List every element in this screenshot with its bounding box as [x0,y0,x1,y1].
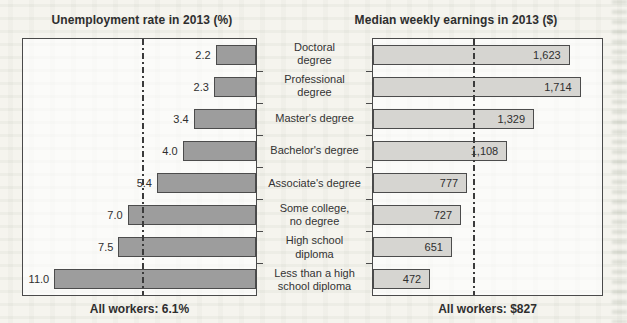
earnings-row: 1,714 [373,71,602,103]
axis-tick [257,71,263,72]
category-label: Less than a high school diploma [257,264,372,296]
earnings-value-label: 1,108 [471,145,507,157]
earnings-bars: 1,6231,7141,3291,108777727651472 [373,39,602,295]
earnings-row: 1,623 [373,39,602,71]
earnings-value-label: 1,329 [497,113,533,125]
unemployment-bar [128,205,256,225]
earnings-value-label: 777 [440,177,466,189]
unemployment-value-label: 2.3 [194,81,209,93]
earnings-value-label: 472 [403,273,429,285]
unemployment-bars: 2.22.33.44.05.47.07.511.0 [23,39,256,295]
axis-tick [257,167,263,168]
earnings-bar: 1,329 [373,109,534,129]
category-label: Associate's degree [257,167,372,199]
earnings-value-label: 1,714 [544,81,580,93]
earnings-row: 1,329 [373,103,602,135]
category-label: Doctoral degree [257,38,372,70]
earnings-row: 727 [373,199,602,231]
axis-tick [257,135,263,136]
category-label: Bachelor's degree [257,135,372,167]
category-label: Master's degree [257,103,372,135]
earnings-bar: 472 [373,269,430,289]
axis-tick [257,231,263,232]
unemployment-value-label: 7.0 [107,209,122,221]
earnings-bar: 1,714 [373,77,581,97]
unemployment-bar [194,109,256,129]
unemployment-row: 2.3 [23,71,256,103]
unemployment-value-label: 2.2 [195,49,210,61]
axis-tick [257,263,263,264]
unemployment-bar [216,45,256,65]
unemployment-average-line [142,39,144,295]
axis-tick [366,231,372,232]
earnings-bar: 777 [373,173,467,193]
unemployment-bar [118,237,256,257]
unemployment-row: 7.5 [23,231,256,263]
unemployment-value-label: 7.5 [98,241,113,253]
earnings-bar: 651 [373,237,452,257]
category-label-column: Doctoral degreeProfessional degreeMaster… [257,38,372,296]
earnings-chart-title: Median weekly earnings in 2013 ($) [350,13,562,27]
axis-tick [366,135,372,136]
axis-tick [366,103,372,104]
unemployment-chart-title: Unemployment rate in 2013 (%) [22,13,262,27]
unemployment-bar [157,173,256,193]
earnings-row: 1,108 [373,135,602,167]
axis-tick [366,167,372,168]
scanned-book-page: Unemployment rate in 2013 (%) Median wee… [0,0,627,323]
axis-tick [366,263,372,264]
earnings-value-label: 1,623 [533,49,569,61]
unemployment-panel: 2.22.33.44.05.47.07.511.0 [22,38,257,296]
earnings-bar: 1,108 [373,141,507,161]
unemployment-value-label: 4.0 [162,145,177,157]
category-label: Professional degree [257,70,372,102]
earnings-bar: 727 [373,205,461,225]
unemployment-average-label: All workers: 6.1% [22,302,257,316]
unemployment-row: 5.4 [23,167,256,199]
unemployment-bar [183,141,256,161]
category-label: Some college, no degree [257,199,372,231]
axis-tick [257,103,263,104]
education-pays-chart: Unemployment rate in 2013 (%) Median wee… [0,0,627,323]
earnings-row: 777 [373,167,602,199]
earnings-value-label: 651 [425,241,451,253]
earnings-value-label: 727 [434,209,460,221]
earnings-bar: 1,623 [373,45,570,65]
earnings-average-line [473,39,475,295]
unemployment-bar [54,269,256,289]
unemployment-row: 4.0 [23,135,256,167]
unemployment-bar [214,77,256,97]
category-label: High school diploma [257,232,372,264]
unemployment-value-label: 11.0 [29,273,50,285]
axis-tick [257,199,263,200]
earnings-average-label: All workers: $827 [372,302,603,316]
earnings-row: 651 [373,231,602,263]
unemployment-row: 7.0 [23,199,256,231]
axis-tick [366,71,372,72]
unemployment-row: 3.4 [23,103,256,135]
unemployment-value-label: 3.4 [173,113,188,125]
unemployment-row: 2.2 [23,39,256,71]
unemployment-row: 11.0 [23,263,256,295]
earnings-panel: 1,6231,7141,3291,108777727651472 [372,38,603,296]
unemployment-value-label: 5.4 [137,177,152,189]
axis-tick [366,199,372,200]
earnings-row: 472 [373,263,602,295]
